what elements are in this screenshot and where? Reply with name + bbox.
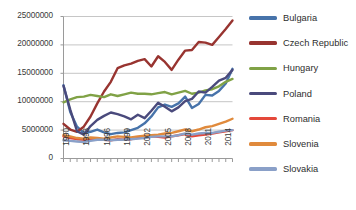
legend-swatch-icon <box>249 92 277 95</box>
legend-swatch-icon <box>249 41 277 44</box>
x-tick-label-text: 2011 <box>205 128 213 162</box>
legend-swatch-icon <box>249 142 277 145</box>
legend-item-romania[interactable]: Romania <box>249 113 320 125</box>
x-tick-label-text: 1996 <box>104 128 112 162</box>
x-tick-label-text: 2002 <box>144 128 152 162</box>
legend-item-bulgaria[interactable]: Bulgaria <box>249 12 317 24</box>
line-chart: 0500000010000000150000002000000025000000… <box>0 0 356 210</box>
x-tick-label-text: 2005 <box>165 128 173 162</box>
legend-item-label: Slovenia <box>283 139 319 149</box>
legend-item-slovakia[interactable]: Slovakia <box>249 163 318 175</box>
legend-swatch-icon <box>249 16 277 19</box>
x-tick-label-text: 2008 <box>185 128 193 162</box>
x-tick-label-text: 1999 <box>124 128 132 162</box>
legend-item-label: Slovakia <box>283 164 318 174</box>
legend-item-czech-republic[interactable]: Czech Republic <box>249 37 348 49</box>
legend-item-hungary[interactable]: Hungary <box>249 62 318 74</box>
x-tick-label-text: 1993 <box>83 128 91 162</box>
legend-item-slovenia[interactable]: Slovenia <box>249 138 319 150</box>
legend-swatch-icon <box>249 167 277 170</box>
legend-item-label: Hungary <box>283 63 318 73</box>
legend-swatch-icon <box>249 67 277 70</box>
legend-item-label: Czech Republic <box>283 38 348 48</box>
legend-item-label: Bulgaria <box>283 13 317 23</box>
legend-swatch-icon <box>249 117 277 120</box>
chart-legend: BulgariaCzech RepublicHungaryPolandRoman… <box>249 12 356 190</box>
x-tick-label-text: 1990 <box>63 128 71 162</box>
legend-item-label: Poland <box>283 89 312 99</box>
legend-item-label: Romania <box>283 114 320 124</box>
x-tick-label-text: 2014 <box>225 128 233 162</box>
legend-item-poland[interactable]: Poland <box>249 88 312 100</box>
